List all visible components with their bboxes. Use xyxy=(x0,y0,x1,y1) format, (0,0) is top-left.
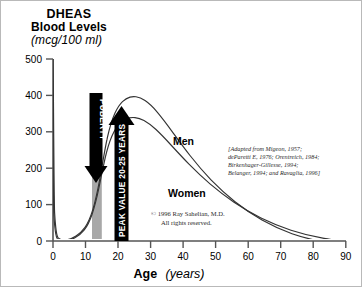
y-tick-label-200: 200 xyxy=(25,163,42,174)
y-tick-label-100: 100 xyxy=(25,199,42,210)
puberty-arrow-label: PUBERTY xyxy=(98,99,107,141)
series-label-women: Women xyxy=(168,187,206,199)
x-tick-label-80: 80 xyxy=(308,251,320,262)
puberty-arrow: PUBERTY xyxy=(85,93,108,183)
copyright-line-2: All rights reserved. xyxy=(161,219,212,226)
y-tick-label-500: 500 xyxy=(25,54,42,65)
citation-line-2: deParetti E, 1976; Orentreich, 1984; xyxy=(228,153,319,160)
y-tick-label-300: 300 xyxy=(25,126,42,137)
x-tick-label-20: 20 xyxy=(112,251,124,262)
peak-value-arrow: PEAK VALUE 20-25 YEARS xyxy=(109,106,135,241)
x-tick-label-50: 50 xyxy=(210,251,222,262)
citation-line-1: [Adapted from Migeon, 1957; xyxy=(228,145,302,152)
y-tick-label-400: 400 xyxy=(25,90,42,101)
x-tick-label-40: 40 xyxy=(178,251,190,262)
x-axis-ticks xyxy=(53,241,346,248)
citation-line-3: Birkenhager-Gillesse, 1994; xyxy=(228,161,298,168)
x-tick-label-0: 0 xyxy=(50,251,56,262)
x-tick-label-60: 60 xyxy=(243,251,255,262)
y-axis-ticks xyxy=(46,59,53,241)
copyright-line-1: © 1996 Ray Sahelian, M.D. xyxy=(151,210,225,217)
x-tick-label-70: 70 xyxy=(275,251,287,262)
copyright-block: © 1996 Ray Sahelian, M.D. All rights res… xyxy=(151,210,225,226)
citation-block: [Adapted from Migeon, 1957; deParetti E,… xyxy=(228,145,321,176)
citation-line-4: Belanger, 1994; and Ravaglia, 1996] xyxy=(228,169,321,176)
chart-figure: DHEAS Blood Levels (mcg/100 ml) 0 100 20… xyxy=(0,0,362,287)
y-tick-label-0: 0 xyxy=(36,236,42,247)
peak-value-arrow-label: PEAK VALUE 20-25 YEARS xyxy=(118,123,127,237)
x-axis-title-italic: (years) xyxy=(166,267,205,281)
x-tick-label-90: 90 xyxy=(340,251,352,262)
x-axis-title: Age (years) xyxy=(134,264,205,281)
x-tick-label-10: 10 xyxy=(80,251,92,262)
chart-plot-area: 0 100 200 300 400 500 0 10 20 30 40 50 6… xyxy=(1,1,362,287)
series-label-men: Men xyxy=(173,135,194,147)
x-tick-label-30: 30 xyxy=(145,251,157,262)
x-axis-title-bold: Age xyxy=(134,267,158,281)
